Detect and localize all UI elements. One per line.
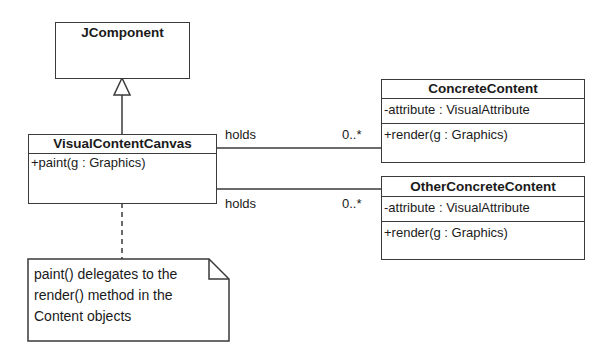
class-jcomponent[interactable]: JComponent — [55, 22, 190, 79]
class-name: ConcreteContent — [382, 80, 584, 98]
attribute: -attribute : VisualAttribute — [382, 197, 584, 221]
class-name: JComponent — [56, 23, 189, 42]
note: paint() delegates to the render() method… — [28, 259, 229, 341]
class-visual-content-canvas[interactable]: VisualContentCanvas +paint(g : Graphics) — [28, 134, 217, 204]
class-concrete-content[interactable]: ConcreteContent -attribute : VisualAttri… — [381, 79, 585, 163]
generalization-arrowhead-icon — [114, 78, 130, 95]
class-other-concrete-content[interactable]: OtherConcreteContent -attribute : Visual… — [381, 176, 585, 260]
note-line: render() method in the — [34, 285, 229, 306]
class-name: OtherConcreteContent — [382, 177, 584, 196]
multiplicity-label: 0..* — [342, 196, 362, 211]
operation: +render(g : Graphics) — [382, 222, 584, 244]
association-label-holds: holds — [225, 127, 256, 142]
class-name: VisualContentCanvas — [29, 135, 216, 153]
note-line: paint() delegates to the — [34, 264, 229, 285]
association-label-holds: holds — [225, 196, 256, 211]
note-line: Content objects — [34, 306, 229, 327]
multiplicity-label: 0..* — [342, 127, 362, 142]
attribute: -attribute : VisualAttribute — [382, 99, 584, 123]
operation: +paint(g : Graphics) — [29, 154, 216, 172]
operation: +render(g : Graphics) — [382, 124, 584, 146]
